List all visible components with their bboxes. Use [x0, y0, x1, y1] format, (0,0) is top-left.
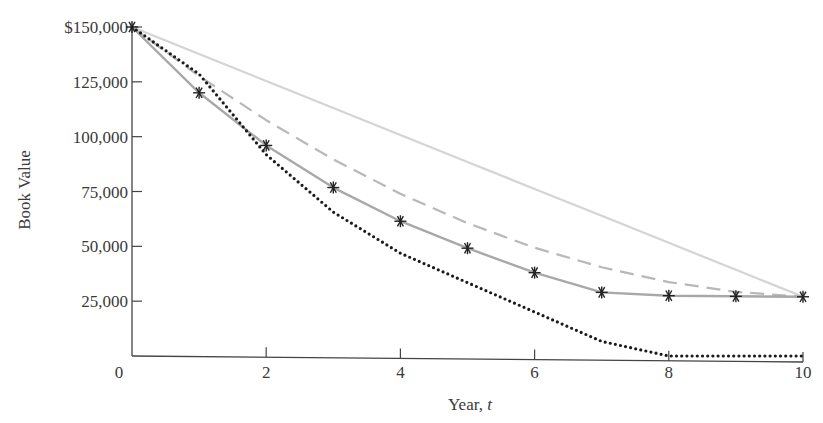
y-tick-label: 125,000 — [73, 73, 128, 92]
asterisk-marker-icon — [596, 286, 608, 298]
x-axis-title: Year, t — [448, 395, 493, 414]
x-tick-label: 10 — [795, 363, 812, 382]
y-tick-label: 100,000 — [73, 128, 128, 147]
y-tick-label: 25,000 — [81, 292, 128, 311]
y-tick-label: 75,000 — [81, 183, 128, 202]
y-axis-title: Book Value — [15, 150, 34, 230]
x-tick-label: 0 — [115, 363, 124, 382]
y-axis: 25,00050,00075,000100,000125,000$150,000 — [64, 18, 142, 356]
x-tick-label: 4 — [396, 363, 405, 382]
series-line-3 — [132, 27, 803, 356]
x-tick-label: 6 — [530, 363, 539, 382]
series-line-0 — [132, 27, 803, 297]
asterisk-marker-icon — [797, 291, 809, 303]
x-tick-label: 8 — [665, 363, 674, 382]
asterisk-marker-icon — [327, 182, 339, 194]
asterisk-marker-icon — [462, 242, 474, 254]
asterisk-marker-icon — [663, 290, 675, 302]
x-tick-label: 2 — [262, 363, 271, 382]
series-group — [126, 21, 809, 356]
asterisk-marker-icon — [394, 215, 406, 227]
x-axis: 0246810 — [115, 347, 812, 382]
y-tick-label: $150,000 — [64, 18, 128, 37]
book-value-chart: 25,00050,00075,000100,000125,000$150,000… — [0, 0, 823, 423]
y-tick-label: 50,000 — [81, 237, 128, 256]
asterisk-marker-icon — [529, 267, 541, 279]
